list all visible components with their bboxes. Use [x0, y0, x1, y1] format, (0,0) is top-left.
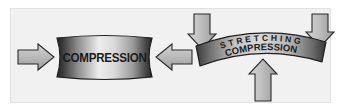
- left-compression-arrow-shape: [18, 44, 54, 70]
- compression-block-label: COMPRESSION: [62, 51, 146, 66]
- bottom-center-support-arrow: [249, 59, 277, 101]
- right-compression-arrow: [156, 44, 192, 70]
- compression-block-group: COMPRESSION: [18, 36, 192, 80]
- figure-root: COMPRESSION S T R E T C H I N G: [0, 0, 341, 111]
- beam-bending-group: S T R E T C H I N G COMPRESSION: [188, 14, 334, 101]
- diagram-canvas: COMPRESSION S T R E T C H I N G: [0, 0, 341, 111]
- left-compression-arrow: [18, 44, 54, 70]
- bottom-center-support-arrow-shape: [249, 59, 277, 101]
- right-compression-arrow-shape: [156, 44, 192, 70]
